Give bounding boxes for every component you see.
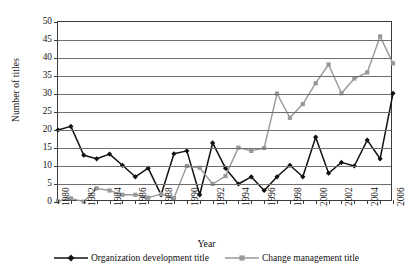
data-point-marker	[68, 124, 73, 129]
y-tick-label: 0	[26, 196, 52, 206]
x-tick-mark	[316, 200, 317, 204]
data-point-marker	[210, 140, 215, 145]
x-tick-mark	[71, 200, 72, 204]
x-tick-mark	[290, 200, 291, 204]
data-point-marker	[352, 76, 356, 80]
y-tick-mark	[54, 148, 58, 149]
x-tick-label: 1994	[241, 187, 251, 206]
data-point-marker	[171, 151, 176, 156]
y-tick-label: 10	[26, 160, 52, 170]
legend-label: Organization development title	[91, 253, 209, 263]
gridline	[58, 40, 391, 41]
x-tick-label: 1996	[267, 187, 277, 206]
data-point-marker	[391, 61, 395, 65]
y-tick-label: 40	[26, 52, 52, 62]
x-tick-mark	[84, 200, 85, 204]
x-tick-label: 1988	[164, 187, 174, 206]
chart-figure: Number of titles Year Organization devel…	[0, 0, 413, 275]
data-point-marker	[184, 148, 189, 153]
diamond-marker-icon	[54, 253, 88, 263]
x-tick-mark	[148, 200, 149, 204]
x-tick-mark	[367, 200, 368, 204]
y-tick-mark	[54, 130, 58, 131]
y-tick-label: 30	[26, 88, 52, 98]
y-tick-mark	[54, 76, 58, 77]
y-tick-label: 50	[26, 16, 52, 26]
x-tick-mark	[354, 200, 355, 204]
x-tick-label: 1992	[216, 187, 226, 206]
y-tick-mark	[54, 58, 58, 59]
gridline	[58, 166, 391, 167]
y-tick-mark	[54, 184, 58, 185]
y-axis-title: Number of titles	[11, 30, 21, 150]
x-tick-mark	[341, 200, 342, 204]
x-tick-label: 2000	[319, 187, 329, 206]
x-tick-label: 1990	[190, 187, 200, 206]
y-tick-label: 25	[26, 106, 52, 116]
plot-area	[57, 21, 392, 201]
legend-entry[interactable]: Organization development title	[54, 253, 209, 263]
data-point-marker	[326, 62, 330, 66]
x-tick-mark	[135, 200, 136, 204]
data-point-marker	[81, 153, 86, 158]
gridline	[58, 148, 391, 149]
gridline	[58, 58, 391, 59]
series-line	[58, 93, 393, 195]
x-tick-label: 2004	[370, 187, 380, 206]
x-tick-label: 1982	[87, 187, 97, 206]
legend-entry[interactable]: Change management title	[225, 253, 359, 263]
x-tick-mark	[277, 200, 278, 204]
x-tick-mark	[213, 200, 214, 204]
x-tick-mark	[110, 200, 111, 204]
data-point-marker	[94, 156, 99, 161]
square-marker-icon	[225, 253, 259, 263]
data-point-marker	[365, 70, 369, 74]
x-tick-mark	[187, 200, 188, 204]
y-tick-label: 5	[26, 178, 52, 188]
x-tick-label: 1986	[138, 187, 148, 206]
x-tick-mark	[264, 200, 265, 204]
data-point-marker	[159, 192, 163, 196]
data-point-marker	[301, 102, 305, 106]
y-tick-label: 15	[26, 142, 52, 152]
data-point-marker	[313, 135, 318, 140]
data-point-marker	[107, 188, 111, 192]
gridline	[58, 112, 391, 113]
gridline	[58, 184, 391, 185]
x-tick-mark	[58, 200, 59, 204]
x-tick-label: 2002	[344, 187, 354, 206]
x-tick-mark	[238, 200, 239, 204]
data-point-marker	[223, 174, 227, 178]
data-point-marker	[133, 193, 137, 197]
data-point-marker	[378, 34, 382, 38]
x-tick-mark	[174, 200, 175, 204]
x-tick-label: 1984	[113, 187, 123, 206]
x-tick-label: 2006	[396, 187, 406, 206]
x-tick-mark	[380, 200, 381, 204]
x-tick-label: 1980	[61, 187, 71, 206]
data-point-marker	[249, 149, 253, 153]
legend-label: Change management title	[262, 253, 359, 263]
data-point-marker	[314, 81, 318, 85]
y-tick-label: 35	[26, 70, 52, 80]
x-tick-label: 1998	[293, 187, 303, 206]
y-tick-mark	[54, 166, 58, 167]
y-tick-mark	[54, 94, 58, 95]
gridline	[58, 130, 391, 131]
data-point-marker	[288, 116, 292, 120]
x-axis-title: Year	[0, 238, 413, 249]
chart-legend: Organization development titleChange man…	[0, 253, 413, 263]
x-tick-mark	[251, 200, 252, 204]
gridline	[58, 94, 391, 95]
gridline	[58, 76, 391, 77]
y-tick-mark	[54, 22, 58, 23]
y-tick-mark	[54, 40, 58, 41]
y-tick-mark	[54, 112, 58, 113]
y-tick-label: 45	[26, 34, 52, 44]
x-tick-mark	[393, 200, 394, 204]
x-tick-mark	[161, 200, 162, 204]
y-tick-label: 20	[26, 124, 52, 134]
data-point-marker	[390, 91, 395, 96]
